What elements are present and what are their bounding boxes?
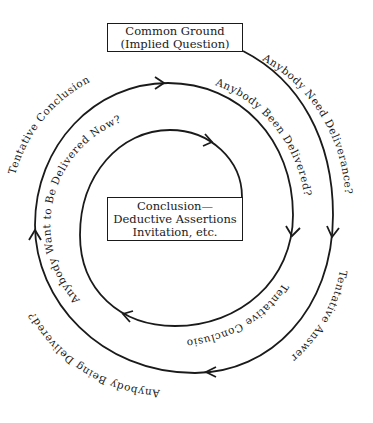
label-outer-left: Anybody Being Delivered? xyxy=(25,310,161,400)
label-outer-bottom: Tentative Answer xyxy=(288,270,349,365)
conclusion-box: Conclusion— Deductive Assertions Invitat… xyxy=(107,197,243,241)
common-ground-box: Common Ground (Implied Question) xyxy=(107,23,243,52)
common-ground-subtitle: (Implied Question) xyxy=(108,38,242,51)
label-middle-right: Anybody Been Delivered? xyxy=(213,75,314,197)
conclusion-line3: Invitation, etc. xyxy=(108,226,242,239)
